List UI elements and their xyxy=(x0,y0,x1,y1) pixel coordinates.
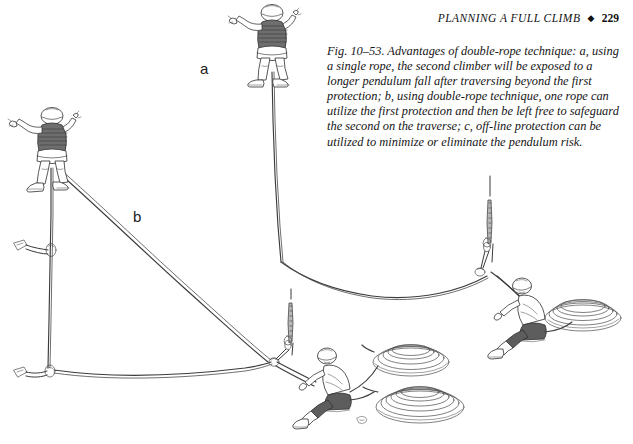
climber-a xyxy=(228,5,301,88)
rope-b-vertical xyxy=(48,168,53,368)
scene-b-group xyxy=(8,108,464,430)
rope-a-vertical xyxy=(272,72,283,262)
protection-b-2 xyxy=(14,365,55,377)
ground-detail-b xyxy=(357,416,367,424)
book-page: PLANNING A FULL CLIMB ◆ 229 Fig. 10–53. … xyxy=(0,0,633,444)
rope-a-traverse xyxy=(281,262,488,300)
protection-b-3 xyxy=(269,289,293,366)
rope-coil-b-2 xyxy=(363,387,464,424)
protection-a xyxy=(475,176,493,276)
climber-b xyxy=(8,108,81,193)
belayer-a xyxy=(488,278,572,359)
rope-coil-a xyxy=(545,300,621,332)
figure-illustration: .ln { fill:none; stroke:#3a3a3a; stroke-… xyxy=(0,0,633,444)
scene-a-group xyxy=(228,5,621,360)
rope-b-diagonal xyxy=(58,170,271,362)
rope-b-traverse xyxy=(54,362,272,378)
